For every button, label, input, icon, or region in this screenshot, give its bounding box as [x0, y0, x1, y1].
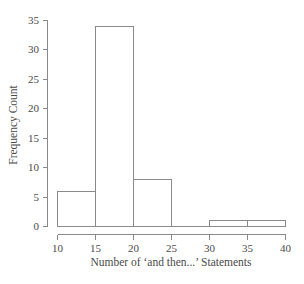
x-axis-title: Number of ‘and then...’ Statements	[90, 256, 252, 268]
histogram-bar	[248, 221, 286, 227]
x-tick-label: 25	[166, 242, 178, 254]
y-tick-label: 15	[28, 132, 40, 144]
histogram-bar	[96, 27, 134, 227]
x-tick-label: 15	[90, 242, 102, 254]
histogram-chart: 0510152025303510152025303540 Number of ‘…	[0, 0, 304, 284]
y-tick-label: 5	[34, 191, 40, 203]
y-axis-title: Frequency Count	[7, 84, 20, 164]
y-tick-label: 25	[28, 73, 40, 85]
x-tick-label: 20	[128, 242, 140, 254]
x-tick-label: 30	[204, 242, 216, 254]
y-tick-label: 10	[28, 161, 40, 173]
y-tick-label: 20	[28, 102, 40, 114]
x-tick-label: 35	[242, 242, 254, 254]
histogram-bar	[210, 221, 248, 227]
y-tick-label: 35	[28, 14, 40, 26]
histogram-bar	[134, 180, 172, 227]
bars-layer	[58, 27, 286, 227]
x-tick-label: 40	[280, 242, 292, 254]
y-tick-label: 0	[34, 220, 40, 232]
histogram-figure: 0510152025303510152025303540 Number of ‘…	[0, 0, 304, 284]
x-tick-label: 10	[52, 242, 64, 254]
histogram-bar	[58, 192, 96, 227]
y-tick-label: 30	[28, 43, 40, 55]
